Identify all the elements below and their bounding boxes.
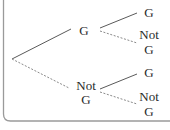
branch-not-g-to-g xyxy=(100,74,137,89)
leaf-label-g-not-line2: G xyxy=(144,42,153,57)
tree-diagram: G Not G G Not G G Not G xyxy=(0,0,170,130)
leaf-label-notg-g: G xyxy=(144,65,153,80)
node-label-not: Not xyxy=(76,78,96,93)
branch-g-to-g xyxy=(100,13,137,28)
node-label-g: G xyxy=(79,23,88,38)
leaf-label-g-g: G xyxy=(144,5,153,20)
node-label-not-g-line2: G xyxy=(81,92,90,107)
branch-not-g-to-not-g xyxy=(100,92,137,104)
leaf-label-notg-not: Not xyxy=(139,89,159,104)
leaf-label-g-not: Not xyxy=(139,27,159,42)
branch-g-to-not-g xyxy=(100,31,137,43)
branch-root-to-g xyxy=(12,29,71,59)
leaf-label-notg-not-line2: G xyxy=(144,104,153,119)
branch-root-to-not-g xyxy=(12,59,69,88)
